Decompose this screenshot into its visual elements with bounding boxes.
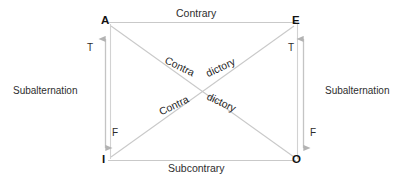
edge-label-subcontrary: Subcontrary — [168, 163, 225, 174]
truth-marker-left-top: T — [87, 43, 93, 53]
truth-marker-right-bottom: F — [310, 128, 316, 138]
vertex-label-e: E — [292, 15, 300, 27]
edge-label-subalternation-left: Subalternation — [13, 86, 78, 96]
vertex-label-i: I — [102, 154, 105, 166]
truth-marker-right-top: T — [288, 43, 294, 53]
vertex-label-a: A — [101, 15, 110, 27]
truth-marker-left-bottom: F — [112, 128, 118, 138]
square-of-opposition-diagram: A E I O Contrary Subcontrary Subalternat… — [0, 0, 405, 182]
vertex-label-o: O — [292, 154, 301, 166]
edge-label-subalternation-right: Subalternation — [325, 86, 390, 96]
edge-label-contrary: Contrary — [176, 8, 216, 19]
